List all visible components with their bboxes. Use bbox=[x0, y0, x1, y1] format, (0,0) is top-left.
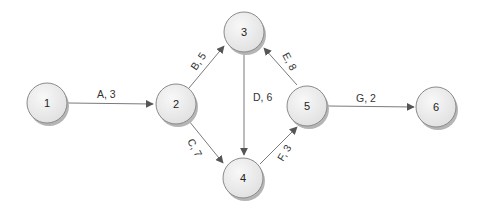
node-6-label: 6 bbox=[433, 101, 439, 113]
edge-a bbox=[68, 103, 153, 104]
edge-label-a: A, 3 bbox=[97, 88, 116, 100]
node-5-label: 5 bbox=[304, 100, 310, 112]
node-4-label: 4 bbox=[240, 172, 246, 184]
node-1: 1 bbox=[27, 83, 69, 126]
network-diagram: A, 3 B, 5 C, 7 D, 6 E, 8 F, 3 G, 2 1 2 3… bbox=[0, 0, 478, 214]
node-5: 5 bbox=[287, 86, 329, 129]
edge-label-g: G, 2 bbox=[356, 92, 376, 104]
edges bbox=[68, 46, 414, 164]
node-4: 4 bbox=[223, 158, 265, 201]
edge-g bbox=[328, 106, 414, 107]
node-1-label: 1 bbox=[44, 97, 50, 109]
edge-label-c: C, 7 bbox=[185, 136, 205, 159]
edge-label-d: D, 6 bbox=[253, 91, 272, 103]
node-3: 3 bbox=[224, 12, 266, 55]
edge-label-f: F, 3 bbox=[275, 142, 294, 163]
node-3-label: 3 bbox=[241, 26, 247, 38]
node-6: 6 bbox=[416, 87, 458, 130]
node-2: 2 bbox=[156, 84, 198, 127]
node-2-label: 2 bbox=[173, 98, 179, 110]
